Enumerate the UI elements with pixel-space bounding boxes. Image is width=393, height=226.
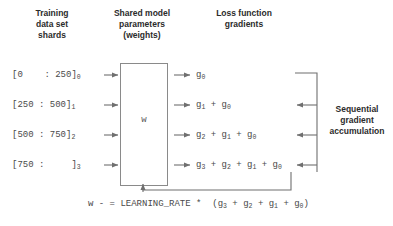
sequential-gradient-accumulation-label: Sequential gradient accumulation [322, 104, 392, 137]
shard-label-3: [750 : ]3 [12, 160, 104, 170]
gradient-subscript: 1 [227, 134, 231, 141]
gradient-subscript: 3 [201, 164, 205, 171]
gradient-subscript: 0 [201, 74, 205, 81]
formula-subscript: 2 [249, 203, 253, 210]
column-header-training-data-shards: Training data set shards [14, 8, 90, 41]
gradient-row-1: g1 + g0 [196, 100, 231, 110]
shard-label-0: [0 : 250]0 [12, 70, 104, 80]
formula-operator: - = [99, 199, 115, 209]
shard-range-3: [750 : ] [12, 160, 77, 170]
formula-variable: w [88, 199, 93, 209]
gradient-subscript: 1 [201, 104, 205, 111]
weights-symbol-label: w [120, 115, 168, 125]
gradient-subscript: 0 [278, 164, 282, 171]
shard-subscript-3: 3 [77, 164, 81, 171]
gradient-subscript: 0 [227, 104, 231, 111]
shard-range-2: [500 : 750] [12, 130, 71, 140]
gradient-subscript: 0 [252, 134, 256, 141]
shard-subscript-1: 1 [71, 104, 75, 111]
formula-subscript: 3 [223, 203, 227, 210]
gradient-subscript: 2 [227, 164, 231, 171]
formula-multiply: * [196, 199, 201, 209]
gradient-subscript: 2 [201, 134, 205, 141]
formula-learning-rate: LEARNING_RATE [120, 199, 190, 209]
column-header-shared-model-parameters: Shared model parameters (weights) [98, 8, 186, 41]
shard-label-2: [500 : 750]2 [12, 130, 104, 140]
diagram-canvas: Training data set shards Shared model pa… [0, 0, 393, 226]
gradient-subscript: 1 [252, 164, 256, 171]
shard-range-0: [0 : 250] [12, 70, 77, 80]
formula-subscript: 0 [300, 203, 304, 210]
gradient-row-3: g3 + g2 + g1 + g0 [196, 160, 282, 170]
shard-range-1: [250 : 500] [12, 100, 71, 110]
accumulation-bus-line [295, 73, 317, 172]
gradient-row-0: g0 [196, 70, 205, 80]
weight-update-formula: w - = LEARNING_RATE * (g3 + g2 + g1 + g0… [88, 199, 309, 209]
shard-label-1: [250 : 500]1 [12, 100, 104, 110]
formula-subscript: 1 [274, 203, 278, 210]
shard-subscript-0: 0 [77, 74, 81, 81]
gradient-row-2: g2 + g1 + g0 [196, 130, 256, 140]
shard-subscript-2: 2 [71, 134, 75, 141]
column-header-loss-function-gradients: Loss function gradients [196, 8, 292, 30]
